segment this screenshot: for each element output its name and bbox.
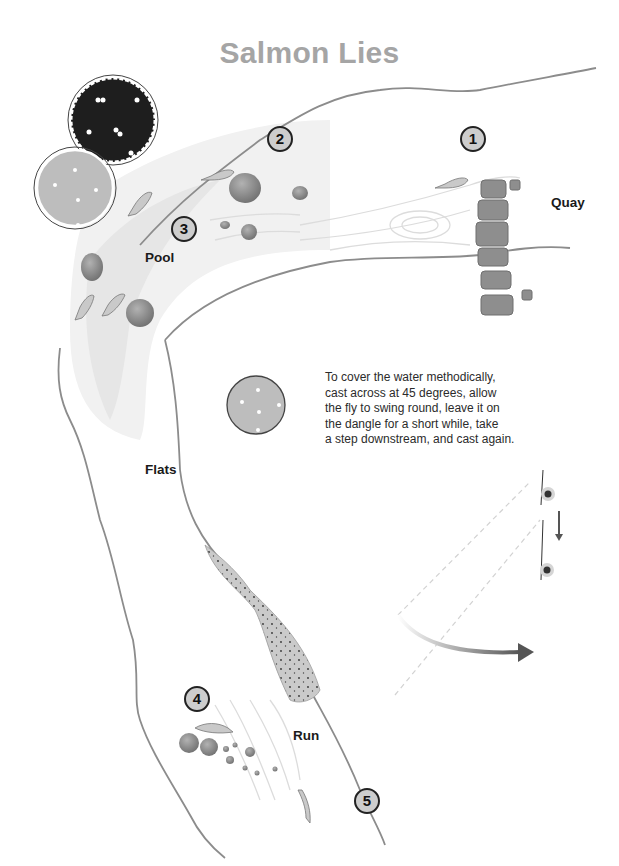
pool-shading: [70, 120, 330, 440]
curved-arrow-icon: [398, 615, 534, 662]
lie-marker-1: 1: [460, 126, 486, 152]
label-run: Run: [293, 728, 319, 743]
lie-marker-2: 2: [267, 126, 293, 152]
instruction-line: the fly to swing round, leave it on: [325, 401, 555, 417]
label-quay: Quay: [551, 195, 585, 210]
quay-stones: [476, 180, 532, 315]
tree-light-icon: [34, 147, 116, 229]
instruction-line: cast across at 45 degrees, allow: [325, 386, 555, 402]
instruction-line: the dangle for a short while, take: [325, 417, 555, 433]
instruction-line: a step downstream, and cast again.: [325, 432, 555, 448]
lie-marker-3: 3: [171, 216, 197, 242]
casting-diagram: [395, 470, 563, 695]
lie-marker-5: 5: [354, 788, 380, 814]
tree-small-icon: [227, 376, 285, 434]
gravel-bank: [205, 545, 320, 702]
lie-marker-4: 4: [184, 686, 210, 712]
down-arrow-icon: [555, 511, 563, 541]
angler-icon: [540, 563, 554, 577]
casting-instructions: To cover the water methodically, cast ac…: [325, 370, 555, 448]
angler-icon: [541, 487, 555, 501]
current-lines: [210, 177, 520, 800]
label-pool: Pool: [145, 250, 174, 265]
label-flats: Flats: [145, 462, 177, 477]
instruction-line: To cover the water methodically,: [325, 370, 555, 386]
